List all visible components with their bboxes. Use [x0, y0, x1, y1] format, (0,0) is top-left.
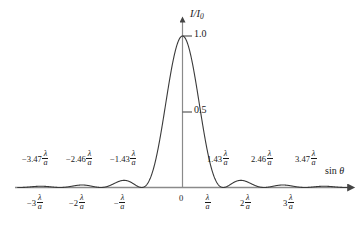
fraction-denominator: a [130, 159, 136, 167]
x-tick-label-minus-2: −2λa [69, 194, 85, 211]
peak-label-coefficient: −3.47 [22, 154, 42, 164]
peak-label-coefficient: −1.43 [110, 154, 130, 164]
peak-label-plus-1-43: 1.43λa [207, 150, 229, 167]
y-axis-title-subscript: 0 [200, 12, 204, 21]
x-axis-title: sin θ [325, 166, 344, 176]
x-tick-coefficient: 3 [283, 198, 287, 208]
fraction-denominator: a [223, 159, 229, 167]
peak-label-coefficient: 2.46 [251, 154, 266, 164]
lambda-over-a-fraction: λa [37, 194, 43, 211]
lambda-over-a-fraction: λa [288, 194, 294, 211]
y-axis-title-text: I/I [190, 8, 200, 19]
fraction-denominator: a [245, 203, 251, 211]
diffraction-figure: I/I0 sin θ 1.0 0.5 −3.47λa −2.46λa −1.43… [0, 0, 362, 228]
peak-label-coefficient: 3.47 [295, 154, 310, 164]
x-tick-coefficient: −3 [27, 198, 36, 208]
lambda-over-a-fraction: λa [130, 150, 136, 167]
x-tick-label-minus-3: −3λa [27, 194, 43, 211]
x-tick-coefficient: − [114, 198, 119, 208]
peak-label-coefficient: −2.46 [66, 154, 86, 164]
peak-label-plus-2-46: 2.46λa [251, 150, 273, 167]
y-tick-label-half: 0.5 [194, 105, 207, 115]
lambda-over-a-fraction: λa [311, 150, 317, 167]
fraction-denominator: a [42, 159, 48, 167]
peak-label-plus-3-47: 3.47λa [295, 150, 317, 167]
x-tick-label-plus-3: 3λa [283, 194, 294, 211]
x-tick-label-plus-1: λa [204, 194, 211, 211]
x-tick-label-minus-1: −λa [114, 194, 125, 211]
fraction-denominator: a [311, 159, 317, 167]
x-axis-title-prefix: sin [325, 165, 339, 176]
peak-label-minus-3-47: −3.47λa [22, 150, 48, 167]
lambda-over-a-fraction: λa [42, 150, 48, 167]
fraction-denominator: a [86, 159, 92, 167]
lambda-over-a-fraction: λa [267, 150, 273, 167]
x-tick-coefficient: −2 [69, 198, 78, 208]
fraction-denominator: a [288, 203, 294, 211]
theta-symbol: θ [339, 165, 344, 176]
fraction-denominator: a [205, 203, 211, 211]
lambda-over-a-fraction: λa [79, 194, 85, 211]
lambda-over-a-fraction: λa [86, 150, 92, 167]
lambda-over-a-fraction: λa [119, 194, 125, 211]
peak-label-minus-2-46: −2.46λa [66, 150, 92, 167]
peak-label-minus-1-43: −1.43λa [110, 150, 136, 167]
y-tick-label-one: 1.0 [194, 29, 207, 39]
x-tick-label-origin: 0 [179, 194, 183, 203]
x-tick-coefficient: 2 [240, 198, 244, 208]
fraction-denominator: a [37, 203, 43, 211]
y-axis-title: I/I0 [190, 9, 204, 20]
peak-label-coefficient: 1.43 [207, 154, 222, 164]
lambda-over-a-fraction: λa [205, 194, 211, 211]
fraction-denominator: a [79, 203, 85, 211]
fraction-denominator: a [119, 203, 125, 211]
lambda-over-a-fraction: λa [223, 150, 229, 167]
fraction-denominator: a [267, 159, 273, 167]
x-tick-label-plus-2: 2λa [240, 194, 251, 211]
lambda-over-a-fraction: λa [245, 194, 251, 211]
